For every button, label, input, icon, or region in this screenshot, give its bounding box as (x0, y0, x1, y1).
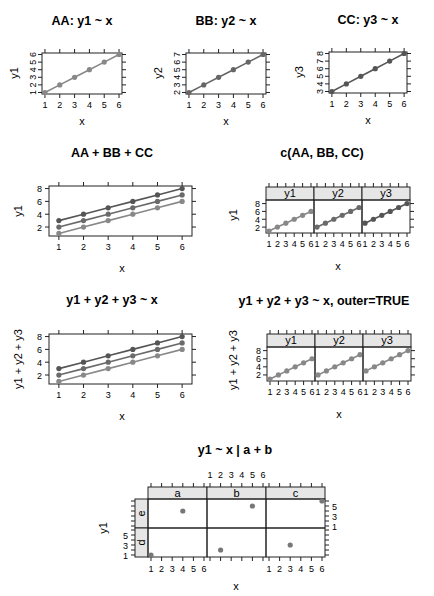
y-tick-label: 2 (37, 223, 42, 233)
y-tick-label: 1 (28, 90, 38, 95)
data-point (372, 364, 377, 369)
data-point (180, 192, 185, 197)
series-line-y3 (332, 54, 404, 92)
data-point (341, 360, 346, 365)
data-point (357, 352, 362, 357)
x-tick-label: 3 (106, 242, 111, 252)
data-point (389, 356, 394, 361)
data-point (42, 90, 47, 95)
y-axis-label: y1 (12, 205, 24, 217)
x-tick-label: 4 (130, 390, 135, 400)
x-tick-label: 1 (148, 564, 153, 574)
x-tick-label: 3 (106, 390, 111, 400)
data-point (180, 334, 185, 339)
y-tick-label: 1 (123, 551, 128, 561)
data-point (319, 498, 324, 503)
x-tick-label: 5 (246, 100, 251, 110)
y-tick-label: 6 (37, 345, 42, 355)
x-tick-label: 2 (371, 239, 376, 249)
y-axis-label: y1 + y2 + y3 (12, 329, 24, 389)
series-line-y2 (59, 195, 182, 227)
y-tick-label: 5 (172, 67, 182, 72)
data-point (404, 201, 409, 206)
data-point (397, 352, 402, 357)
x-tick-label: 3 (380, 387, 385, 397)
x-tick-label: 2 (344, 99, 349, 109)
x-tick-label: 6 (402, 99, 407, 109)
x-tick-label: 5 (397, 387, 402, 397)
data-point (288, 542, 293, 547)
y-tick-label: 4 (315, 81, 325, 86)
x-tick-label: 6 (309, 387, 314, 397)
x-tick-label: 4 (130, 242, 135, 252)
data-point (396, 205, 401, 210)
panel-frame (266, 200, 314, 233)
y-axis-label: y3 (293, 66, 305, 78)
x-tick-label: 6 (357, 387, 362, 397)
x-tick-label: 2 (324, 387, 329, 397)
x-tick-label: 2 (276, 387, 281, 397)
x-tick-label: 2 (81, 390, 86, 400)
x-tick-label: 4 (292, 239, 297, 249)
x-tick-label: 1 (207, 470, 212, 480)
data-point (130, 347, 135, 352)
data-point (56, 224, 61, 229)
y-axis-label: y1 (8, 67, 20, 79)
y-tick-label: 3 (123, 541, 128, 551)
data-point (300, 213, 305, 218)
x-tick-label: 4 (340, 239, 345, 249)
x-tick-label: 5 (250, 470, 255, 480)
data-point (130, 212, 135, 217)
series-line-y2 (189, 55, 263, 93)
data-point (314, 224, 319, 229)
data-point (81, 218, 86, 223)
x-tick-label: 6 (356, 239, 361, 249)
y-tick-label: 6 (37, 197, 42, 207)
x-tick-label: 1 (362, 239, 367, 249)
x-tick-label: 5 (309, 564, 314, 574)
data-point (180, 199, 185, 204)
y-tick-label: 6 (315, 66, 325, 71)
strip-label: a (174, 487, 181, 499)
x-tick-label: 1 (315, 387, 320, 397)
data-point (81, 224, 86, 229)
y-tick-label: 8 (315, 51, 325, 56)
chart-cc: CC: y3 ~ xxy3123456345678 (293, 13, 411, 126)
y-tick-label: 1 (332, 522, 337, 532)
data-point (349, 356, 354, 361)
data-point (362, 221, 367, 226)
data-point (293, 364, 298, 369)
data-point (329, 89, 334, 94)
x-tick-label: 2 (323, 239, 328, 249)
data-point (387, 59, 392, 64)
x-tick-label: 5 (300, 239, 305, 249)
panel-frame (148, 499, 207, 528)
x-tick-label: 4 (388, 239, 393, 249)
x-tick-label: 3 (72, 100, 77, 110)
x-tick-label: 2 (201, 100, 206, 110)
x-axis-label: x (119, 262, 125, 274)
chart-title: c(AA, BB, CC) (280, 146, 363, 160)
strip-label: y2 (333, 334, 345, 346)
x-axis-label: x (335, 260, 341, 272)
data-point (106, 366, 111, 371)
data-point (260, 52, 265, 57)
series-line-y3 (59, 337, 182, 369)
x-tick-label: 5 (396, 239, 401, 249)
data-point (308, 209, 313, 214)
y-tick-label: 4 (172, 75, 182, 80)
data-point (130, 353, 135, 358)
data-point (180, 347, 185, 352)
x-tick-label: 4 (239, 470, 244, 480)
y-tick-label: 5 (332, 502, 337, 512)
x-tick-label: 4 (389, 387, 394, 397)
x-tick-label: 5 (387, 99, 392, 109)
data-point (283, 221, 288, 226)
data-point (284, 368, 289, 373)
data-point (106, 205, 111, 210)
data-point (81, 360, 86, 365)
x-tick-label: 1 (314, 239, 319, 249)
x-tick-label: 5 (155, 242, 160, 252)
x-axis-label: x (233, 580, 239, 592)
chart-y1-x-a-b: y1 ~ x | a + bxy1a123456b123456c123456e1… (97, 443, 337, 592)
